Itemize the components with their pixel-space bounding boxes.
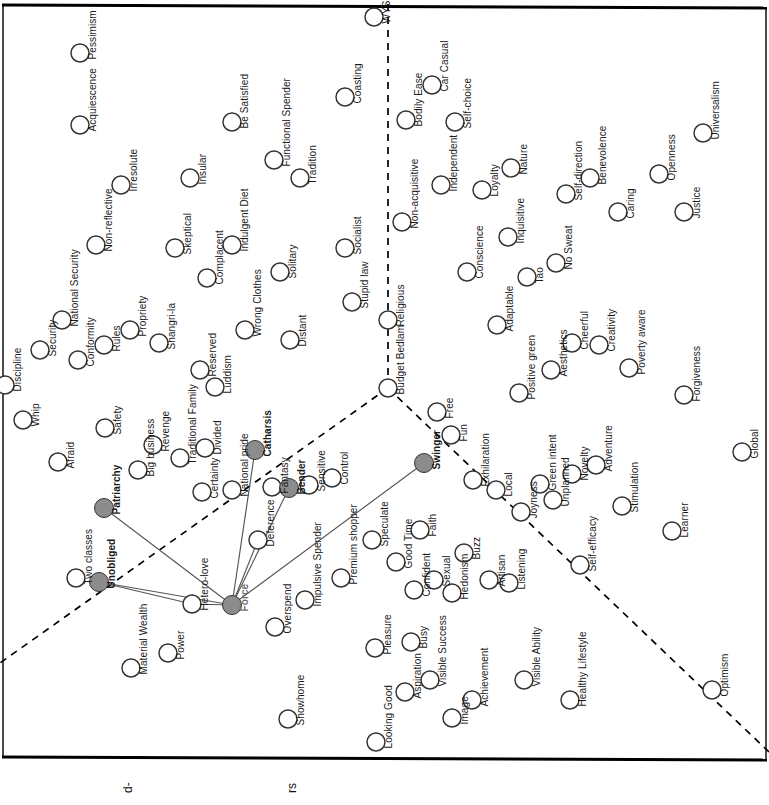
node-circle[interactable] [563, 465, 581, 483]
node-circle[interactable] [512, 503, 530, 521]
node-circle[interactable] [223, 113, 241, 131]
node-circle[interactable] [446, 113, 464, 131]
node-circle[interactable] [561, 691, 579, 709]
node-circle[interactable] [425, 571, 443, 589]
node-circle[interactable] [223, 596, 242, 615]
node-circle[interactable] [14, 411, 32, 429]
node-circle[interactable] [0, 376, 14, 394]
node-circle[interactable] [387, 553, 405, 571]
node-circle[interactable] [499, 228, 517, 246]
node-circle[interactable] [487, 481, 505, 499]
node-circle[interactable] [442, 426, 460, 444]
node-circle[interactable] [95, 336, 113, 354]
node-circle[interactable] [90, 573, 109, 592]
node-circle[interactable] [196, 439, 214, 457]
node-circle[interactable] [193, 483, 211, 501]
node-circle[interactable] [587, 456, 605, 474]
node-circle[interactable] [266, 618, 284, 636]
node-circle[interactable] [171, 449, 189, 467]
node-circle[interactable] [432, 176, 450, 194]
node-circle[interactable] [150, 334, 168, 352]
node-circle[interactable] [300, 476, 318, 494]
node-circle[interactable] [510, 384, 528, 402]
node-circle[interactable] [415, 454, 434, 473]
node-circle[interactable] [542, 361, 560, 379]
node-circle[interactable] [609, 203, 627, 221]
node-circle[interactable] [620, 359, 638, 377]
node-circle[interactable] [694, 124, 712, 142]
node-circle[interactable] [515, 671, 533, 689]
node-circle[interactable] [397, 111, 415, 129]
node-circle[interactable] [363, 531, 381, 549]
node-circle[interactable] [733, 443, 751, 461]
node-circle[interactable] [343, 293, 361, 311]
node-circle[interactable] [263, 478, 281, 496]
node-circle[interactable] [336, 239, 354, 257]
node-circle[interactable] [531, 475, 549, 493]
node-circle[interactable] [336, 88, 354, 106]
node-circle[interactable] [557, 185, 575, 203]
node-circle[interactable] [500, 574, 518, 592]
node-circle[interactable] [402, 633, 420, 651]
node-circle[interactable] [323, 469, 341, 487]
node-circle[interactable] [121, 321, 139, 339]
node-circle[interactable] [581, 169, 599, 187]
node-circle[interactable] [443, 709, 461, 727]
node-circle[interactable] [279, 710, 297, 728]
node-circle[interactable] [95, 499, 114, 518]
node-circle[interactable] [31, 341, 49, 359]
node-circle[interactable] [166, 239, 184, 257]
node-circle[interactable] [71, 116, 89, 134]
node-circle[interactable] [428, 403, 446, 421]
node-circle[interactable] [480, 571, 498, 589]
node-circle[interactable] [423, 76, 441, 94]
node-circle[interactable] [366, 639, 384, 657]
node-circle[interactable] [183, 595, 201, 613]
node-circle[interactable] [365, 8, 383, 26]
node-circle[interactable] [544, 491, 562, 509]
node-circle[interactable] [223, 236, 241, 254]
node-circle[interactable] [281, 331, 299, 349]
node-circle[interactable] [159, 644, 177, 662]
node-circle[interactable] [206, 378, 224, 396]
node-circle[interactable] [71, 44, 89, 62]
node-circle[interactable] [411, 521, 429, 539]
node-circle[interactable] [87, 236, 105, 254]
node-circle[interactable] [463, 691, 481, 709]
node-circle[interactable] [122, 659, 140, 677]
node-circle[interactable] [332, 569, 350, 587]
node-circle[interactable] [198, 269, 216, 287]
node-circle[interactable] [191, 361, 209, 379]
node-circle[interactable] [379, 311, 397, 329]
node-circle[interactable] [129, 461, 147, 479]
node-circle[interactable] [265, 151, 283, 169]
node-circle[interactable] [396, 683, 414, 701]
node-circle[interactable] [236, 321, 254, 339]
node-circle[interactable] [280, 479, 299, 498]
node-circle[interactable] [571, 556, 589, 574]
node-circle[interactable] [49, 453, 67, 471]
node-circle[interactable] [703, 681, 721, 699]
node-circle[interactable] [464, 471, 482, 489]
node-circle[interactable] [271, 263, 289, 281]
node-circle[interactable] [96, 419, 114, 437]
node-circle[interactable] [443, 584, 461, 602]
node-circle[interactable] [144, 436, 162, 454]
node-circle[interactable] [675, 386, 693, 404]
node-circle[interactable] [246, 441, 265, 460]
node-circle[interactable] [488, 316, 506, 334]
node-circle[interactable] [405, 581, 423, 599]
node-circle[interactable] [67, 569, 85, 587]
node-circle[interactable] [563, 334, 581, 352]
node-circle[interactable] [367, 733, 385, 751]
node-circle[interactable] [675, 203, 693, 221]
node-circle[interactable] [393, 213, 411, 231]
node-circle[interactable] [473, 181, 491, 199]
node-circle[interactable] [296, 591, 314, 609]
node-circle[interactable] [181, 169, 199, 187]
node-circle[interactable] [53, 311, 71, 329]
node-circle[interactable] [69, 351, 87, 369]
node-circle[interactable] [112, 176, 130, 194]
node-circle[interactable] [421, 671, 439, 689]
node-circle[interactable] [613, 497, 631, 515]
